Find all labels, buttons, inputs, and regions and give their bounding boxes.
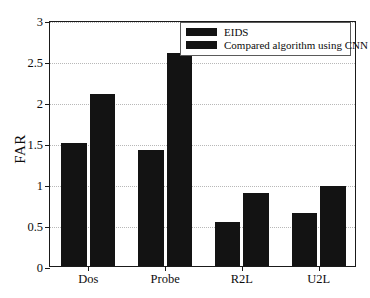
y-tick-label-1: 1 (37, 180, 43, 193)
y-tick-label-3: 3 (37, 16, 43, 29)
y-tick-mark-2 (45, 104, 50, 105)
bar-probe-series-1 (138, 150, 164, 266)
y-tick-mark-3 (45, 22, 50, 23)
x-tick-label-probe: Probe (151, 273, 180, 286)
gridline-y-2.5 (50, 63, 355, 64)
plot-area: 00.511.522.53 DosProbeR2LU2L (49, 21, 356, 267)
y-tick-label-0: 0 (37, 262, 43, 275)
x-tick-mark-r2l (242, 266, 243, 271)
x-tick-label-u2l: U2L (307, 273, 330, 286)
legend-label-eids: EIDS (224, 27, 248, 38)
y-tick-mark-0.5 (45, 227, 50, 228)
y-tick-mark-2.5 (45, 63, 50, 64)
bar-u2l-series-2 (320, 186, 346, 266)
x-tick-mark-probe (165, 266, 166, 271)
x-tick-mark-u2l (319, 266, 320, 271)
figure-canvas: FAR 00.511.522.53 DosProbeR2LU2L EIDS Co… (0, 0, 370, 298)
x-tick-label-r2l: R2L (231, 273, 253, 286)
bar-dos-series-2 (90, 94, 116, 266)
y-tick-label-2.5: 2.5 (27, 57, 43, 70)
legend-label-compared-cnn: Compared algorithm using CNN (224, 40, 368, 51)
y-tick-label-0.5: 0.5 (27, 221, 43, 234)
x-tick-label-dos: Dos (78, 273, 98, 286)
y-tick-mark-1.5 (45, 145, 50, 146)
y-tick-mark-1 (45, 186, 50, 187)
chart-legend: EIDS Compared algorithm using CNN (180, 22, 351, 56)
bar-r2l-series-2 (243, 193, 269, 266)
bar-dos-series-1 (61, 143, 87, 266)
legend-item-eids: EIDS (186, 26, 345, 38)
bar-probe-series-2 (167, 53, 193, 266)
legend-swatch-eids (186, 28, 217, 37)
y-tick-mark-0 (45, 268, 50, 269)
legend-item-compared-cnn: Compared algorithm using CNN (186, 39, 345, 51)
legend-swatch-compared-cnn (186, 41, 217, 50)
bar-u2l-series-1 (292, 213, 318, 266)
x-tick-mark-dos (88, 266, 89, 271)
y-tick-label-2: 2 (37, 98, 43, 111)
y-tick-label-1.5: 1.5 (27, 139, 43, 152)
bar-r2l-series-1 (215, 222, 241, 266)
